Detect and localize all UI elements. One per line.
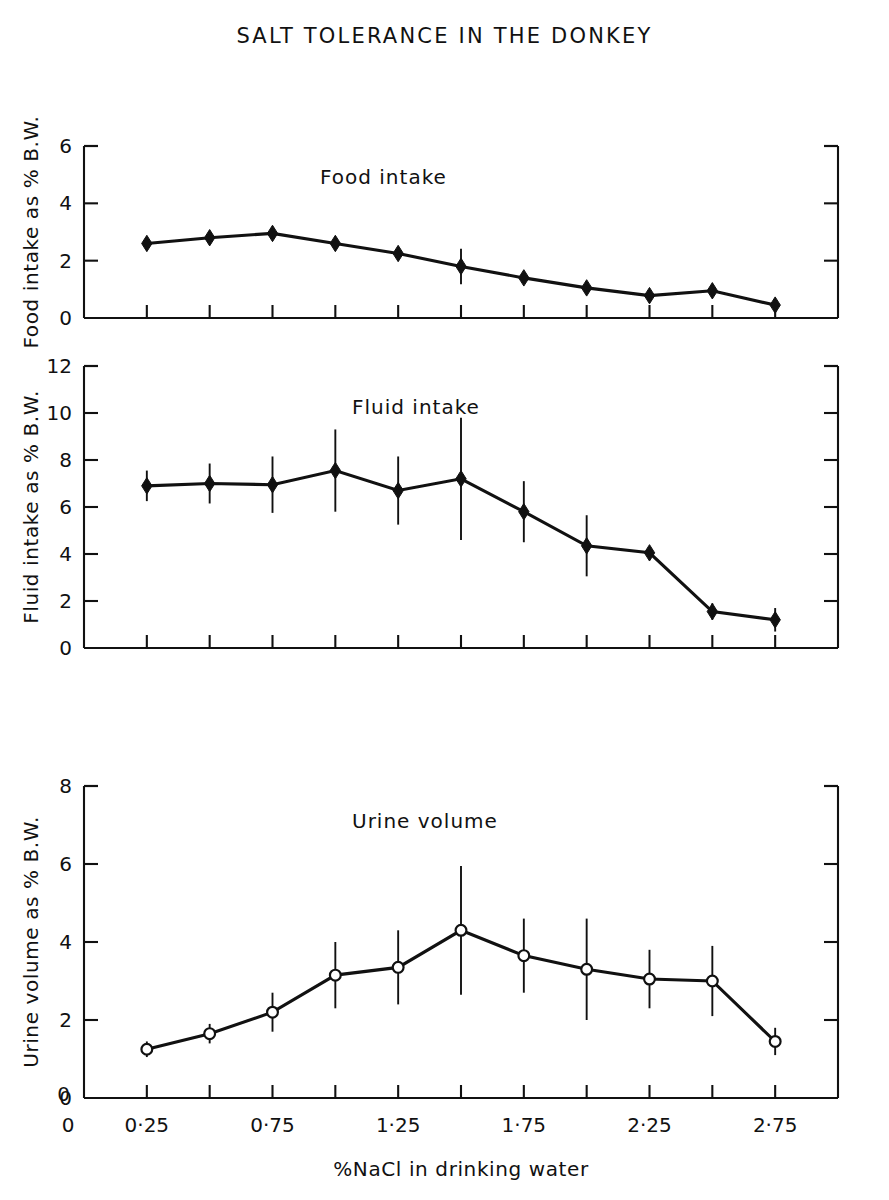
data-point-marker [204, 230, 214, 246]
data-point-marker [770, 1036, 781, 1047]
x-tick-label: 0·25 [125, 1113, 170, 1137]
y-tick-label: 4 [59, 930, 72, 954]
data-point-marker [393, 962, 404, 973]
chart-canvas: 0246Food intakeFood intake as % B.W.0246… [0, 0, 889, 1200]
data-point-marker [330, 462, 340, 478]
data-point-marker [330, 235, 340, 251]
data-point-marker [393, 482, 403, 498]
panel-1: 0246Food intakeFood intake as % B.W. [19, 115, 838, 348]
y-tick-label: 2 [59, 589, 72, 613]
y-tick-label: 2 [59, 249, 72, 273]
y-axis-title: Fluid intake as % B.W. [19, 390, 43, 624]
data-point-marker [581, 280, 591, 296]
data-point-marker [204, 1028, 215, 1039]
y-tick-label: 6 [59, 495, 72, 519]
data-point-marker [330, 970, 341, 981]
data-point-marker [581, 538, 591, 554]
data-point-marker [644, 287, 654, 303]
data-point-marker [770, 297, 780, 313]
x-axis-group: 00·250·751·251·752·252·750%NaCl in drink… [57, 1082, 797, 1181]
data-point-marker [707, 603, 717, 619]
data-point-marker [707, 283, 717, 299]
x-tick-label: 1·25 [376, 1113, 421, 1137]
panel-title: Urine volume [352, 809, 498, 833]
data-point-marker [456, 258, 466, 274]
y-tick-label: 2 [59, 1008, 72, 1032]
x-tick-label-zero: 0 [62, 1113, 75, 1137]
data-point-marker [644, 974, 655, 985]
y-axis-title: Food intake as % B.W. [19, 115, 43, 348]
panel-title: Fluid intake [352, 395, 480, 419]
y-tick-label: 4 [59, 542, 72, 566]
data-point-marker [581, 964, 592, 975]
data-point-marker [519, 270, 529, 286]
data-point-marker [456, 471, 466, 487]
data-point-marker [142, 478, 152, 494]
y-tick-label: 8 [59, 448, 72, 472]
y-axis-title: Urine volume as % B.W. [19, 816, 43, 1068]
data-point-marker [204, 475, 214, 491]
x-axis-title: %NaCl in drinking water [333, 1157, 589, 1181]
y-tick-label: 10 [47, 401, 72, 425]
panel-3: 02468Urine volumeUrine volume as % B.W. [19, 774, 838, 1110]
data-point-marker [456, 925, 467, 936]
y-tick-label: 12 [47, 354, 72, 378]
data-point-marker [267, 225, 277, 241]
panel-2: 024681012Fluid intakeFluid intake as % B… [19, 354, 838, 660]
data-point-marker [519, 504, 529, 520]
data-point-marker [770, 612, 780, 628]
data-point-marker [707, 976, 718, 987]
data-point-marker [644, 545, 654, 561]
x-tick-label: 0·75 [250, 1113, 295, 1137]
data-point-marker [141, 1044, 152, 1055]
panel-title: Food intake [320, 165, 447, 189]
data-point-marker [393, 245, 403, 261]
x-tick-label: 2·25 [627, 1113, 672, 1137]
x-origin-label: 0 [57, 1082, 70, 1106]
figure-root: SALT TOLERANCE IN THE DONKEY 0246Food in… [0, 0, 889, 1200]
y-tick-label: 0 [59, 306, 72, 330]
data-point-marker [267, 476, 277, 492]
y-tick-label: 0 [59, 636, 72, 660]
data-point-marker [142, 235, 152, 251]
y-tick-label: 4 [59, 191, 72, 215]
data-point-marker [518, 950, 529, 961]
y-tick-label: 6 [59, 134, 72, 158]
data-point-marker [267, 1007, 278, 1018]
x-tick-label: 2·75 [753, 1113, 798, 1137]
x-tick-label: 1·75 [502, 1113, 547, 1137]
y-tick-label: 6 [59, 852, 72, 876]
y-tick-label: 8 [59, 774, 72, 798]
